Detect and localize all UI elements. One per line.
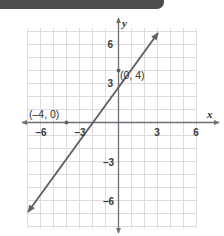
x-tick-label-3: 3 <box>154 127 160 138</box>
y-tick-label-3: 3 <box>107 78 113 89</box>
y-intercept-label: (0, 4) <box>120 69 145 81</box>
x-tick-label-neg3: –3 <box>74 127 86 138</box>
graph-page: –6 –3 3 6 6 3 –3 –6 y x (0, 4) (–4, 0) <box>0 0 224 236</box>
x-tick-label-6: 6 <box>193 127 199 138</box>
x-intercept-label: (–4, 0) <box>29 108 59 120</box>
coordinate-plane: –6 –3 3 6 6 3 –3 –6 y x (0, 4) (–4, 0) <box>0 0 224 236</box>
y-tick-label-neg6: –6 <box>103 196 115 207</box>
y-tick-label-6: 6 <box>107 39 113 50</box>
y-tick-label-neg3: –3 <box>103 157 115 168</box>
x-tick-label-neg6: –6 <box>35 127 47 138</box>
x-axis-label: x <box>206 108 213 120</box>
y-axis-label: y <box>120 17 127 29</box>
x-intercept-point <box>65 121 69 125</box>
